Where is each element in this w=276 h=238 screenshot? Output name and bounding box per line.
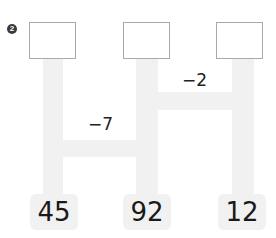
start-value-right: 12 xyxy=(218,194,266,230)
start-value-left: 45 xyxy=(30,194,78,230)
upper-rung-middle-right xyxy=(136,92,254,110)
lower-rung-operation-label: −7 xyxy=(88,115,113,133)
lower-rung-left-middle xyxy=(43,140,158,157)
left-column-band xyxy=(43,59,63,195)
upper-rung-operation-label: −2 xyxy=(182,71,207,89)
answer-box-middle[interactable] xyxy=(123,22,170,59)
answer-box-left[interactable] xyxy=(29,22,76,59)
problem-number-badge: 2 xyxy=(7,24,17,34)
ladder-puzzle: 2 −2 −7 45 92 12 xyxy=(0,0,276,238)
start-value-middle: 92 xyxy=(123,194,171,230)
answer-box-right[interactable] xyxy=(216,22,263,59)
right-column-band xyxy=(232,59,254,195)
middle-column-band xyxy=(136,59,158,195)
